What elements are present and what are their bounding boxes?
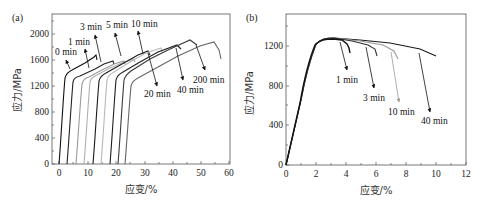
annotation-40min: 40 min	[177, 85, 204, 95]
y-tick-label: 0	[278, 160, 283, 170]
panel-b-plot-frame	[286, 14, 466, 165]
panel-a-y-tick-labels: 0 400 800 1200 1600 2000	[30, 29, 49, 169]
panel-b-x-tick-labels: 0 2 4 6 8 10 12	[284, 169, 471, 179]
panel-b-x-axis-title: 应变/%	[360, 184, 393, 196]
annotation-b-10min: 10 min	[388, 107, 415, 117]
x-tick-label: 10	[431, 169, 441, 179]
annotation-10min: 10 min	[131, 19, 158, 29]
panel-b-curves	[286, 38, 436, 165]
x-tick-label: 50	[196, 168, 206, 178]
y-tick-label: 2000	[30, 29, 49, 39]
y-tick-label: 800	[269, 81, 284, 91]
y-tick-label: 400	[35, 133, 50, 143]
y-tick-label: 0	[44, 159, 49, 169]
curve-200min-b	[125, 42, 221, 164]
annotation-5min: 5 min	[106, 20, 128, 30]
panel-a-label: (a)	[12, 12, 23, 24]
curve-40min	[110, 45, 181, 164]
annotation-b-40min: 40 min	[421, 116, 448, 126]
x-tick-label: 10	[83, 168, 93, 178]
panel-b-y-axis	[286, 26, 289, 165]
x-tick-label: 8	[404, 169, 409, 179]
curve-b-40min	[286, 38, 436, 165]
curve-0min	[59, 55, 97, 164]
x-tick-label: 40	[168, 168, 178, 178]
x-tick-label: 0	[284, 169, 289, 179]
panel-a-y-axis-title: 应力/MPa	[11, 68, 23, 112]
x-tick-label: 20	[111, 168, 121, 178]
y-tick-label: 1200	[30, 81, 49, 91]
figure: (a) 0 400 800 1200 1600 2000	[0, 0, 482, 211]
panel-a: (a) 0 400 800 1200 1600 2000	[11, 12, 234, 195]
x-tick-label: 12	[461, 169, 471, 179]
x-tick-label: 2	[314, 169, 319, 179]
panel-b: (b) 0 400 800 1200	[243, 12, 471, 196]
panel-b-x-axis	[286, 162, 466, 165]
annotation-200min: 200 min	[193, 75, 225, 85]
annotation-3min: 3 min	[80, 22, 102, 32]
annotation-b-3min: 3 min	[363, 93, 385, 103]
panel-a-y-axis	[52, 21, 55, 164]
panel-b-annotations: 1 min 3 min 10 min 40 min	[336, 42, 448, 126]
x-tick-label: 60	[224, 168, 234, 178]
x-tick-label: 6	[374, 169, 379, 179]
panel-b-y-tick-labels: 0 400 800 1200	[264, 41, 283, 170]
y-tick-label: 1600	[30, 55, 49, 65]
panel-a-annotations: 0 min 1 min 3 min 5 min 10 min 20 min 40…	[55, 19, 225, 99]
x-tick-label: 30	[140, 168, 150, 178]
annotation-1min: 1 min	[68, 37, 90, 47]
panel-b-y-axis-title: 应力/MPa	[243, 71, 255, 115]
curve-b-1min	[286, 39, 350, 165]
panel-a-x-tick-labels: 0 10 20 30 40 50 60	[57, 168, 234, 178]
y-tick-label: 800	[35, 107, 50, 117]
annotation-b-1min: 1 min	[336, 75, 358, 85]
y-tick-label: 1200	[264, 41, 283, 51]
x-tick-label: 0	[57, 168, 62, 178]
annotation-20min: 20 min	[144, 89, 171, 99]
x-tick-label: 4	[344, 169, 349, 179]
panel-a-curves	[59, 40, 221, 164]
panel-a-x-axis-title: 应变/%	[125, 183, 158, 195]
y-tick-label: 400	[269, 120, 284, 130]
panel-b-label: (b)	[246, 12, 258, 24]
annotation-0min: 0 min	[55, 47, 77, 57]
